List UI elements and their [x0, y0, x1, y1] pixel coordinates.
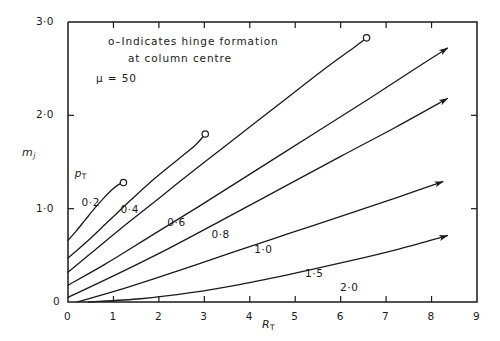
curve-label: 0·8 — [211, 228, 230, 240]
y-tick-label: 1·0 — [36, 202, 54, 214]
x-tick-label: 1 — [109, 310, 116, 322]
curve-line — [68, 99, 447, 298]
y-tick-label: 2·0 — [36, 108, 54, 120]
annotation-line-3: μ = 50 — [96, 72, 137, 84]
x-tick-label: 2 — [155, 310, 162, 322]
hinge-formation-marker — [120, 179, 126, 185]
hinge-formation-marker — [363, 35, 369, 41]
series-parameter-label: pT — [75, 167, 87, 181]
annotation-line-1: o–Indicates hinge formation — [108, 35, 279, 47]
curve-line — [68, 183, 123, 241]
x-tick-label: 3 — [200, 310, 207, 322]
x-tick-label: 4 — [246, 310, 253, 322]
axis-frame — [68, 22, 477, 302]
curve-label: 1·0 — [254, 243, 273, 255]
y-tick-label: 3·0 — [36, 15, 54, 27]
figure-container: 012345678901·02·03·0 mj RT pT o–Indicate… — [0, 0, 500, 341]
x-tick-label: 5 — [291, 310, 298, 322]
curve-1-0 — [68, 99, 447, 298]
annotation-line-2: at column centre — [128, 52, 232, 64]
curve-label: 0·6 — [167, 216, 186, 228]
axes — [68, 22, 477, 302]
x-tick-label: 7 — [382, 310, 389, 322]
curve-label: 0·2 — [81, 196, 100, 208]
curve-label: 2·0 — [340, 281, 359, 293]
curve-label: 0·4 — [121, 203, 140, 215]
x-tick-label: 0 — [64, 310, 71, 322]
x-axis-title: RT — [262, 318, 275, 332]
x-tick-label: 9 — [473, 310, 480, 322]
x-tick-label: 6 — [337, 310, 344, 322]
curve-label: 1·5 — [305, 267, 324, 279]
y-tick-label: 0 — [53, 295, 60, 307]
x-tick-label: 8 — [428, 310, 435, 322]
y-axis-title: mj — [22, 146, 36, 160]
hinge-formation-marker — [202, 131, 208, 137]
